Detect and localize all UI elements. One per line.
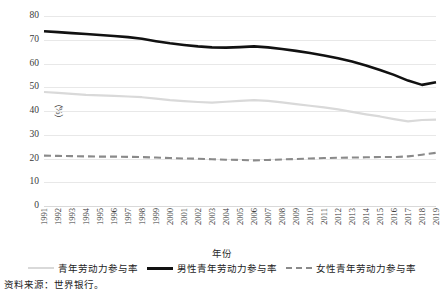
x-axis-tick-label: 1995 — [96, 208, 105, 225]
y-axis-tick-label: 70 — [30, 35, 40, 45]
x-axis-tick-label: 2003 — [208, 208, 217, 225]
x-axis-tick-label: 2017 — [404, 208, 413, 225]
line-swatch-light-solid — [28, 267, 54, 269]
legend-item: 青年劳动力参与率 — [28, 261, 138, 275]
y-axis-tick-label: 30 — [30, 130, 40, 140]
x-axis-tick-label: 1999 — [152, 208, 161, 225]
x-axis-tick-label: 2010 — [306, 208, 315, 225]
x-axis-tick-label: 2002 — [194, 208, 203, 225]
chart-figure: （%） 80706050403020100 199119921993199419… — [0, 0, 444, 301]
series-line — [44, 92, 436, 121]
y-axis-tick-label: 10 — [30, 178, 40, 188]
series-lines — [44, 16, 436, 206]
x-axis-title: 年份 — [0, 246, 444, 260]
y-axis-tick-label: 20 — [30, 154, 40, 164]
legend-item: 男性青年劳动力参与率 — [147, 261, 277, 275]
x-axis-tick-label: 2014 — [362, 208, 371, 225]
x-axis-tick-label: 2007 — [264, 208, 273, 225]
x-axis-tick-label: 2013 — [348, 208, 357, 225]
y-axis-tick-label: 60 — [30, 59, 40, 69]
x-axis-tick-label: 2011 — [320, 208, 329, 225]
x-axis-tick-label: 2005 — [236, 208, 245, 225]
x-axis-tick-label: 2015 — [376, 208, 385, 225]
x-axis-tick-label: 2019 — [432, 208, 441, 225]
x-axis-ticks: 1991199219931994199519961997199819992000… — [44, 208, 436, 250]
x-axis-tick-label: 1991 — [40, 208, 49, 225]
x-axis-tick-label: 1993 — [68, 208, 77, 225]
x-axis-tick-label: 2012 — [334, 208, 343, 225]
x-axis-tick-label: 2016 — [390, 208, 399, 225]
source-note: 资料来源：世界银行。 — [4, 277, 104, 291]
legend-item-label: 女性青年劳动力参与率 — [316, 261, 416, 275]
x-axis-tick-label: 2009 — [292, 208, 301, 225]
series-line — [44, 153, 436, 161]
x-axis-tick-label: 2008 — [278, 208, 287, 225]
x-axis-tick-label: 1996 — [110, 208, 119, 225]
line-swatch-gray-dashed — [286, 267, 312, 269]
chart-legend: 青年劳动力参与率男性青年劳动力参与率女性青年劳动力参与率 — [0, 261, 444, 275]
series-line — [44, 31, 436, 85]
plot-area: （%） 80706050403020100 — [44, 16, 436, 206]
x-axis-tick-label: 1992 — [54, 208, 63, 225]
x-axis-tick-label: 2006 — [250, 208, 259, 225]
x-axis-baseline — [44, 206, 436, 207]
x-axis-tick-label: 2000 — [166, 208, 175, 225]
y-axis-tick-label: 50 — [30, 83, 40, 93]
line-swatch-dark-solid — [147, 267, 173, 270]
x-axis-tick-label: 1994 — [82, 208, 91, 225]
y-axis-tick-label: 80 — [30, 11, 40, 21]
legend-item: 女性青年劳动力参与率 — [286, 261, 416, 275]
x-axis-tick-label: 2001 — [180, 208, 189, 225]
x-axis-tick-label: 2018 — [418, 208, 427, 225]
y-axis-tick-label: 40 — [30, 106, 40, 116]
x-axis-tick-label: 1997 — [124, 208, 133, 225]
legend-item-label: 男性青年劳动力参与率 — [177, 261, 277, 275]
legend-item-label: 青年劳动力参与率 — [58, 261, 138, 275]
x-axis-tick-label: 1998 — [138, 208, 147, 225]
x-axis-tick-label: 2004 — [222, 208, 231, 225]
